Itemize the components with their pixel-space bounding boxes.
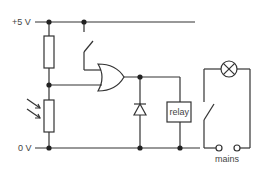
mains-terminals — [216, 145, 240, 151]
mains-label: mains — [215, 154, 240, 164]
mains-loop — [204, 69, 250, 148]
junction-dot — [137, 74, 142, 79]
junction-dot — [81, 19, 86, 24]
push-switch — [84, 22, 101, 70]
label-0v: 0 V — [18, 143, 32, 153]
ldr — [27, 99, 54, 148]
relay-switch — [204, 104, 214, 120]
resistor — [44, 22, 54, 100]
junction-dot — [137, 145, 142, 150]
lamp — [221, 61, 237, 77]
label-plus-5v: +5 V — [12, 17, 31, 27]
circuit-diagram: +5 V 0 V — [0, 0, 265, 169]
light-arrows-icon — [27, 99, 40, 118]
junction-dot — [46, 82, 51, 87]
relay-coil: relay — [167, 77, 191, 148]
relay-label: relay — [170, 107, 190, 117]
junction-dot — [177, 145, 182, 150]
junction-dot — [46, 19, 51, 24]
diode — [134, 77, 146, 148]
junction-dot — [46, 145, 51, 150]
